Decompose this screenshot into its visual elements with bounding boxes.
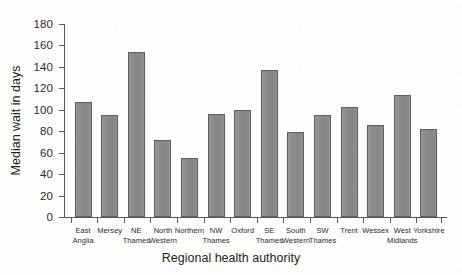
bar xyxy=(234,110,251,217)
y-tick: 120 xyxy=(59,88,64,89)
bar xyxy=(314,115,331,217)
bar xyxy=(101,115,118,217)
y-axis-line xyxy=(64,24,65,218)
x-tick xyxy=(416,218,417,223)
x-tick xyxy=(283,218,284,223)
bar xyxy=(128,52,145,217)
y-tick: 80 xyxy=(59,131,64,132)
bar xyxy=(367,125,384,217)
y-tick: 140 xyxy=(59,67,64,68)
y-tick-label: 140 xyxy=(34,61,54,73)
x-tick xyxy=(71,218,72,223)
bar xyxy=(75,102,92,217)
y-tick-label: 40 xyxy=(40,168,53,180)
y-tick-label: 80 xyxy=(40,125,53,137)
x-axis-category-label: Yorkshire xyxy=(406,226,452,236)
bar xyxy=(181,158,198,217)
x-tick xyxy=(337,218,338,223)
plot-area: 020406080100120140160180 xyxy=(64,24,447,217)
y-tick-label: 0 xyxy=(47,211,54,223)
x-tick xyxy=(204,218,205,223)
x-tick xyxy=(441,218,442,223)
x-label-line-2: Anglia xyxy=(60,236,106,246)
x-label-line-2: Thames xyxy=(193,236,239,246)
bar xyxy=(287,132,304,217)
y-tick-label: 20 xyxy=(40,190,53,202)
x-tick xyxy=(257,218,258,223)
x-label-line-2: Western xyxy=(140,236,186,246)
x-label-line-1: Yorkshire xyxy=(413,226,444,235)
x-tick xyxy=(310,218,311,223)
bar xyxy=(208,114,225,217)
y-tick-label: 60 xyxy=(40,147,53,159)
x-label-line-2: Midlands xyxy=(379,236,425,246)
x-tick xyxy=(363,218,364,223)
x-tick xyxy=(390,218,391,223)
x-tick xyxy=(124,218,125,223)
bar-chart-figure: Median wait in days 02040608010012014016… xyxy=(0,0,462,275)
x-axis-title: Regional health authority xyxy=(0,251,462,265)
bar xyxy=(420,129,437,217)
y-tick: 20 xyxy=(59,196,64,197)
y-tick-label: 120 xyxy=(34,82,54,94)
y-axis-title: Median wait in days xyxy=(9,24,25,217)
y-tick: 40 xyxy=(59,174,64,175)
y-tick-label: 180 xyxy=(34,18,54,30)
x-label-line-2: Thames xyxy=(300,236,346,246)
y-tick: 0 xyxy=(59,217,64,218)
x-tick xyxy=(177,218,178,223)
bar xyxy=(394,95,411,217)
y-tick: 60 xyxy=(59,153,64,154)
x-tick xyxy=(230,218,231,223)
y-tick: 160 xyxy=(59,45,64,46)
bar xyxy=(261,70,278,217)
x-tick xyxy=(150,218,151,223)
y-tick-label: 100 xyxy=(34,104,54,116)
y-tick: 180 xyxy=(59,24,64,25)
x-tick xyxy=(97,218,98,223)
bar xyxy=(341,107,358,217)
y-tick: 100 xyxy=(59,110,64,111)
bar xyxy=(154,140,171,217)
y-tick-label: 160 xyxy=(34,39,54,51)
